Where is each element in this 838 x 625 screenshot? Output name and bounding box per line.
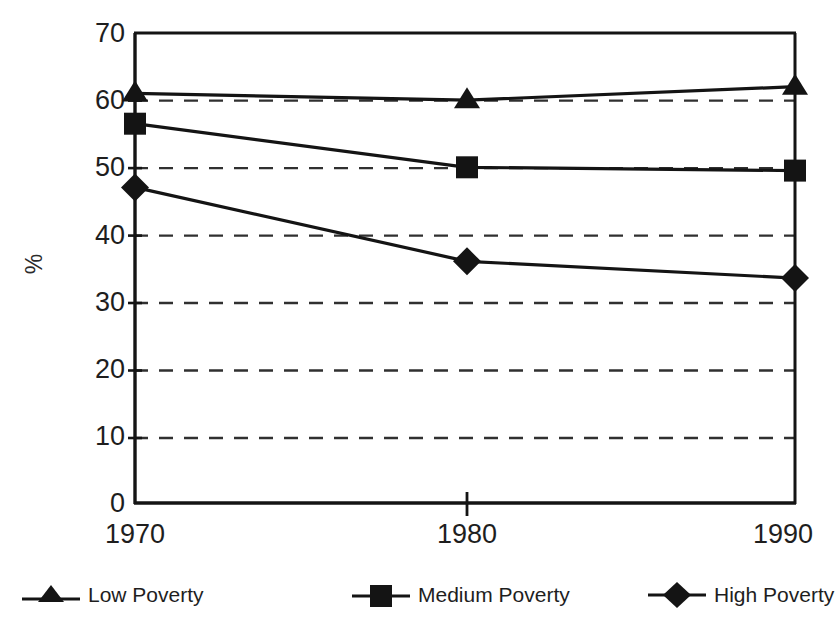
- triangle-marker: [122, 80, 148, 101]
- triangle-marker: [782, 74, 808, 95]
- legend-label-medium-poverty: Medium Poverty: [418, 583, 570, 607]
- x-tick-label-1990: 1990: [728, 519, 838, 549]
- legend-label-high-poverty: High Poverty: [714, 583, 834, 607]
- diamond-marker: [781, 264, 809, 292]
- x-tick-label-1980: 1980: [412, 519, 522, 549]
- triangle-marker: [454, 87, 480, 108]
- chart-legend: Low Poverty Medium Poverty High Poverty: [0, 575, 838, 619]
- line-chart: % 70 60 50 40 30 20 10 0: [0, 0, 838, 625]
- legend-item-low-poverty: Low Poverty: [22, 575, 204, 615]
- square-marker: [784, 160, 806, 182]
- triangle-marker-icon: [22, 580, 80, 610]
- diamond-marker: [453, 247, 481, 275]
- legend-label-low-poverty: Low Poverty: [88, 583, 204, 607]
- square-marker-icon: [352, 580, 410, 610]
- plot-area: [0, 0, 838, 560]
- diamond-marker: [121, 173, 149, 201]
- diamond-marker-icon: [648, 580, 706, 610]
- legend-item-high-poverty: High Poverty: [648, 575, 834, 615]
- square-marker: [124, 113, 146, 135]
- legend-item-medium-poverty: Medium Poverty: [352, 575, 570, 615]
- x-tick-label-1970: 1970: [80, 519, 190, 549]
- square-marker: [456, 156, 478, 178]
